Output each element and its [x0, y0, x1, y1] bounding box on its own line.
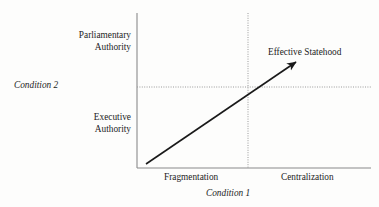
conceptual-quadrant-diagram: Parliamentary Authority Executive Author…: [0, 0, 379, 207]
y-axis-top-label: Parliamentary Authority: [79, 30, 131, 53]
y-axis-bottom-label-line2: Authority: [94, 124, 131, 136]
effective-statehood-arrow: [146, 62, 296, 164]
y-axis-bottom-label: Executive Authority: [94, 112, 131, 135]
y-axis-top-label-line1: Parliamentary: [79, 30, 131, 42]
x-axis-title: Condition 1: [206, 188, 250, 200]
y-axis-bottom-label-line1: Executive: [94, 112, 131, 124]
y-axis-title: Condition 2: [14, 80, 58, 92]
effective-statehood-label: Effective Statehood: [268, 47, 341, 59]
y-axis-top-label-line2: Authority: [79, 42, 131, 54]
x-axis-left-label: Fragmentation: [164, 172, 218, 184]
x-axis-right-label: Centralization: [281, 172, 334, 184]
